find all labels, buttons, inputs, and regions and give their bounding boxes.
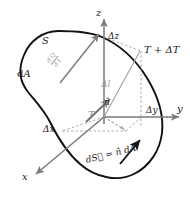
delta-l-label: Δl: [101, 80, 110, 89]
x-axis-label: x: [22, 172, 28, 182]
heat-flux-arrow: [60, 34, 99, 83]
y-axis-label: y: [177, 104, 183, 114]
temperature-label: T: [88, 110, 95, 120]
normal-vector-label: n̂: [104, 98, 110, 107]
surface-label: S: [42, 36, 49, 46]
area-element-label: dA: [17, 69, 31, 79]
temperature-plus-label: T + ΔT: [144, 45, 179, 55]
z-axis-label: z: [96, 8, 101, 18]
diagram-canvas: [0, 0, 190, 207]
delta-z-label: Δz: [108, 32, 119, 41]
delta-y-label: Δy: [146, 106, 158, 115]
heat-flux-diagram: S dA d Q d t z y x Δz Δy Δx Δl n̂ T T + …: [0, 0, 190, 207]
projection-arrow: [104, 117, 124, 129]
delta-x-label: Δx: [43, 125, 55, 134]
